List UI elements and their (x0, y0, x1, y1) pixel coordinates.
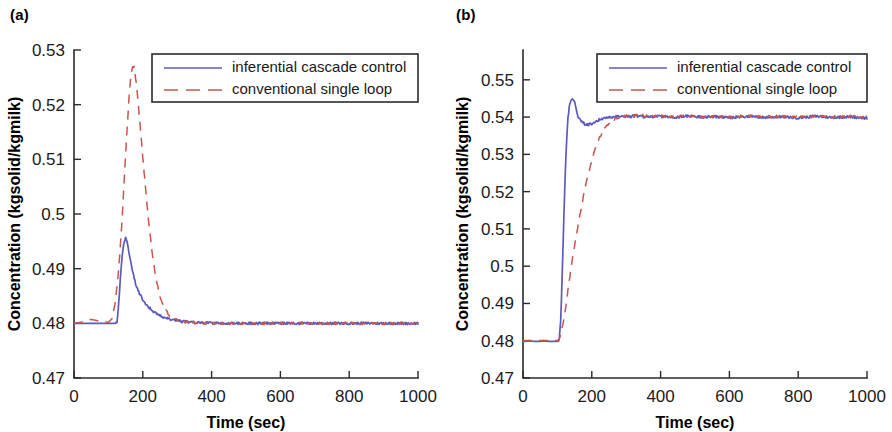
y-tick-label: 0.55 (481, 71, 514, 90)
y-tick-label: 0.49 (32, 260, 65, 279)
y-tick-label: 0.53 (32, 41, 65, 60)
legend-label-inferential: inferential cascade control (232, 58, 406, 75)
series-conventional-single-loop (74, 66, 418, 324)
y-tick-label: 0.5 (41, 205, 65, 224)
panel-b: (b) 0.470.480.490.50.510.520.530.540.550… (446, 0, 892, 432)
x-axis-title: Time (sec) (207, 414, 286, 431)
x-tick-label: 400 (646, 387, 674, 406)
y-tick-label: 0.51 (481, 220, 514, 239)
panel-b-plot: 0.470.480.490.50.510.520.530.540.5502004… (446, 0, 892, 432)
x-tick-label: 200 (129, 387, 157, 406)
x-tick-label: 200 (578, 387, 606, 406)
series-inferential-cascade-control (523, 99, 867, 342)
series-conventional-single-loop (523, 114, 867, 341)
x-tick-label: 0 (518, 387, 527, 406)
panel-b-svg: 0.470.480.490.50.510.520.530.540.5502004… (446, 0, 892, 432)
y-axis-title: Concentration (kgsolid/kgmilk) (6, 97, 23, 332)
y-tick-label: 0.51 (32, 150, 65, 169)
panel-a-plot: 0.470.480.490.50.510.520.530200400600800… (0, 0, 446, 432)
y-tick-label: 0.53 (481, 145, 514, 164)
x-tick-label: 1000 (848, 387, 886, 406)
x-tick-label: 600 (715, 387, 743, 406)
y-tick-label: 0.54 (481, 108, 514, 127)
y-tick-label: 0.52 (481, 183, 514, 202)
x-tick-label: 600 (266, 387, 294, 406)
y-tick-label: 0.47 (32, 369, 65, 388)
legend-label-conventional: conventional single loop (677, 80, 837, 97)
y-tick-label: 0.47 (481, 369, 514, 388)
y-tick-label: 0.5 (490, 257, 514, 276)
legend-label-conventional: conventional single loop (232, 80, 392, 97)
y-tick-label: 0.52 (32, 96, 65, 115)
y-tick-label: 0.49 (481, 294, 514, 313)
x-tick-label: 0 (69, 387, 78, 406)
panel-a: (a) 0.470.480.490.50.510.520.53020040060… (0, 0, 446, 432)
y-tick-label: 0.48 (32, 314, 65, 333)
figure-container: (a) 0.470.480.490.50.510.520.53020040060… (0, 0, 892, 432)
y-axis-title: Concentration (kgsolid/kgmilk) (454, 97, 471, 332)
x-tick-label: 800 (784, 387, 812, 406)
series-inferential-cascade-control (74, 237, 418, 324)
x-tick-label: 800 (335, 387, 363, 406)
x-axis-title: Time (sec) (656, 414, 735, 431)
legend-label-inferential: inferential cascade control (677, 58, 851, 75)
x-tick-label: 400 (197, 387, 225, 406)
y-tick-label: 0.48 (481, 332, 514, 351)
panel-a-svg: 0.470.480.490.50.510.520.530200400600800… (0, 0, 446, 432)
x-tick-label: 1000 (399, 387, 437, 406)
